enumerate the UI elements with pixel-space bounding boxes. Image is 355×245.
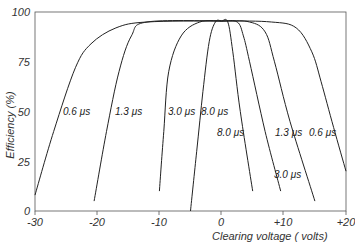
label-3-0us-right: 3.0 μs [274,169,301,180]
efficiency-chart: 0 25 50 75 100 -30 -20 -10 0 +10 +20 Cle… [0,0,355,245]
x-axis-ticks: -30 -20 -10 0 +10 +20 [27,216,355,228]
label-1-3us-right: 1.3 μs [275,127,302,138]
y-axis-label: Efficiency (%) [4,91,16,159]
label-0-6us-left: 0.6 μs [63,106,90,117]
y-tick-75: 75 [18,56,31,68]
x-axis-label: Clearing voltage ( volts) [212,230,328,242]
x-tick-10: +10 [274,216,294,228]
label-8-0us-left: 8.0 μs [201,106,228,117]
label-8-0us-right: 8.0 μs [217,127,244,138]
x-tick-0: 0 [218,216,225,228]
y-tick-50: 50 [18,106,31,118]
label-1-3us-left: 1.3 μs [115,106,142,117]
x-tick-neg20: -20 [89,216,106,228]
label-3-0us-left: 3.0 μs [168,106,195,117]
y-tick-100: 100 [12,6,31,18]
x-tick-neg10: -10 [151,216,168,228]
label-0-6us-right: 0.6 μs [309,127,336,138]
y-tick-25: 25 [17,156,31,168]
x-tick-neg30: -30 [27,216,44,228]
x-tick-marks [35,211,346,215]
x-tick-20: +20 [337,216,355,228]
